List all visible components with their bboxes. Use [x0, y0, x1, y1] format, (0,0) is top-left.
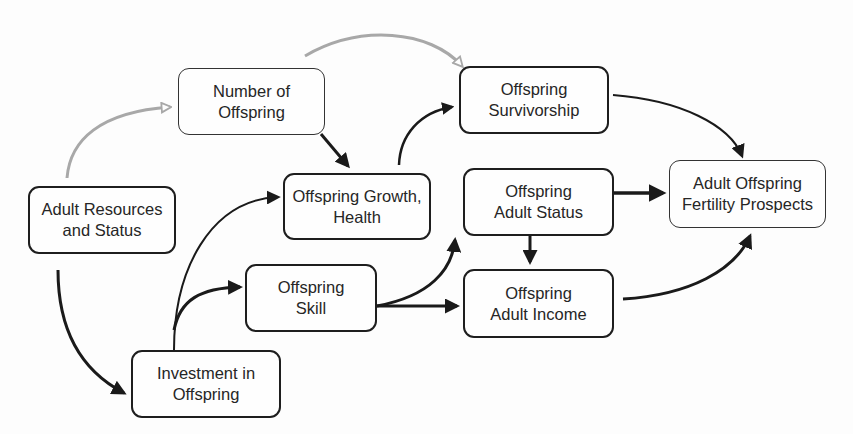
node-offspring-skill: Offspring Skill [245, 264, 377, 332]
arrow-resources-to-investment [58, 270, 124, 393]
arrow-income-to-fertility [623, 236, 750, 299]
node-number-of-offspring: Number of Offspring [178, 68, 325, 135]
arrow-skill-to-status [377, 240, 455, 306]
node-label-line1: Adult Offspring [693, 173, 802, 194]
node-label-line1: Investment in [157, 363, 255, 384]
node-label-line2: Adult Income [490, 304, 586, 325]
diagram-canvas: Number of Offspring Adult Resources and … [0, 0, 853, 434]
node-label-line2: Fertility Prospects [682, 194, 813, 215]
node-offspring-growth-health: Offspring Growth, Health [283, 173, 431, 240]
arrow-investment-to-skill [174, 287, 240, 330]
node-label-line1: Offspring [505, 283, 572, 304]
arrow-growth-to-survivorship [399, 107, 452, 165]
node-offspring-adult-status: Offspring Adult Status [463, 168, 614, 236]
arrow-number-to-survivorship [305, 35, 462, 66]
node-label-line2: Health [333, 207, 381, 228]
arrow-survivorship-to-fertility [613, 95, 742, 156]
node-offspring-survivorship: Offspring Survivorship [459, 66, 609, 134]
arrow-number-to-growth [321, 134, 348, 166]
arrow-resources-to-number [67, 107, 170, 178]
node-label-line2: Skill [296, 298, 326, 319]
node-label-line1: Adult Resources [41, 199, 162, 220]
node-offspring-adult-income: Offspring Adult Income [463, 269, 614, 338]
node-investment-in-offspring: Investment in Offspring [131, 350, 281, 418]
node-label-line2: Offspring [173, 384, 240, 405]
node-label-line2: Survivorship [489, 100, 580, 121]
node-label-line1: Offspring [501, 79, 568, 100]
node-label-line2: and Status [63, 220, 142, 241]
node-label-line1: Number of [213, 81, 290, 102]
node-label-line1: Offspring [505, 181, 572, 202]
node-label-line2: Offspring [218, 102, 285, 123]
node-label-line1: Offspring [278, 277, 345, 298]
node-adult-offspring-fertility-prospects: Adult Offspring Fertility Prospects [669, 160, 826, 228]
node-adult-resources-and-status: Adult Resources and Status [28, 186, 176, 254]
node-label-line1: Offspring Growth, [293, 186, 422, 207]
node-label-line2: Adult Status [494, 202, 583, 223]
